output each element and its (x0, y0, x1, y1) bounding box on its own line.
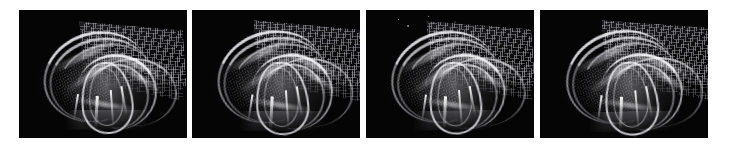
render-scene (366, 10, 534, 138)
render-panel-1[interactable] (19, 10, 187, 138)
render-panel-2[interactable] (192, 10, 360, 138)
render-scene (19, 10, 187, 138)
render-panel-3[interactable] (366, 10, 534, 138)
speck (407, 25, 409, 27)
render-scene (540, 10, 708, 138)
render-scene (192, 10, 360, 138)
figure-panel-strip (0, 0, 729, 147)
render-panel-4[interactable] (540, 10, 708, 138)
speck (428, 16, 429, 17)
speck (398, 19, 399, 20)
